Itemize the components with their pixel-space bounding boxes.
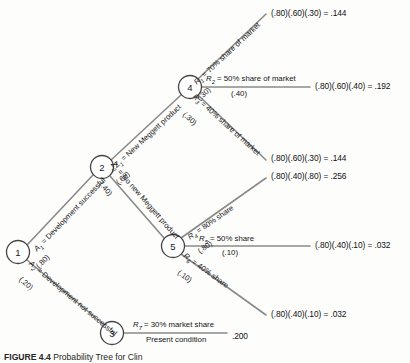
node-4-label: 4 xyxy=(187,82,192,93)
branch-r7-text: = 30% market share xyxy=(144,320,214,329)
figure-caption-text: Probability Tree for Clin xyxy=(53,352,142,362)
branch-r5-text: = 50% share xyxy=(210,234,254,243)
node-2-label: 2 xyxy=(99,162,104,173)
branch-label-r7: R7 = 30% market share xyxy=(133,320,214,331)
result-r3: (.80)(.60)(.30) = .144 xyxy=(271,153,346,163)
branch-line-z1 xyxy=(111,95,181,160)
branch-prob-r2: (.40) xyxy=(231,89,247,98)
node-1-label: 1 xyxy=(15,247,20,258)
tree-diagram-canvas: 1 2 3 4 5 xyxy=(0,0,410,363)
branch-r7-sub: 7 xyxy=(139,325,142,331)
branch-r5-sub: 5 xyxy=(205,239,208,245)
result-r7: .200 xyxy=(232,331,248,341)
node-1[interactable]: 1 xyxy=(7,241,30,264)
figure-caption-prefix: FIGURE 4.4 xyxy=(4,352,51,362)
result-r5: (.80)(.40)(.10) = .032 xyxy=(315,240,390,250)
result-r6: (.80)(.40)(.10) = .032 xyxy=(271,309,346,319)
result-r1: (.80)(.60)(.30) = .144 xyxy=(271,8,346,18)
branch-r2-sub: 2 xyxy=(212,79,215,85)
branch-label-r2: R2 = 50% share of market xyxy=(206,74,296,85)
node-5-label: 5 xyxy=(170,241,175,252)
branch-r2-text: = 50% share of market xyxy=(217,74,296,83)
branch-label-r5: R5 = 50% share xyxy=(199,234,254,245)
branch-prob-r5: (.10) xyxy=(222,248,238,257)
result-r4: (.80)(.40)(.80) = .256 xyxy=(271,171,346,181)
probability-tree-figure: 1 2 3 4 5 A1 = Development successful (.… xyxy=(0,0,410,363)
figure-caption: FIGURE 4.4 Probability Tree for Clin xyxy=(4,352,143,362)
result-r2: (.80)(.60)(.40) = .192 xyxy=(315,81,390,91)
branch-prob-r7: Present condition xyxy=(146,335,206,344)
branch-line-a1 xyxy=(27,175,93,245)
